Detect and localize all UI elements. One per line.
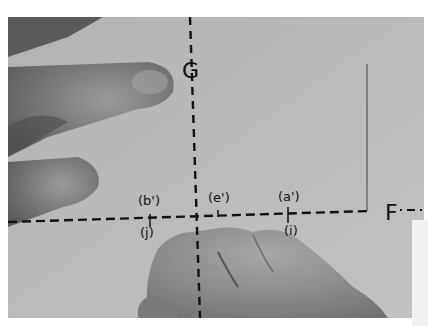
g-axis-label: G [182, 60, 199, 82]
point-i-label: (i) [284, 224, 298, 237]
photo: G F (b') (j) (e') (a') (i) [8, 17, 424, 318]
photo-illustration [8, 17, 424, 318]
point-a-prime-label: (a') [278, 190, 300, 203]
f-axis-label: F [385, 202, 398, 224]
edge-fade [412, 220, 428, 326]
point-b-prime-label: (b') [138, 194, 160, 207]
point-e-prime-label: (e') [208, 191, 230, 204]
point-j-label: (j) [140, 226, 154, 239]
